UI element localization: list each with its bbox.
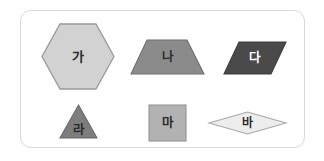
shape-rhombus-ba: 바	[208, 111, 287, 135]
triangle-icon	[59, 104, 98, 139]
shape-triangle-ra: 라	[59, 104, 98, 139]
parallelogram-icon	[223, 41, 287, 75]
parallelogram-path	[224, 42, 286, 74]
triangle-path	[60, 105, 97, 138]
shape-trapezoid-na: 나	[130, 39, 205, 75]
shapes-card: 가 나 다 라 마 바	[20, 10, 305, 148]
trapezoid-icon	[130, 39, 205, 75]
shape-square-ma: 마	[148, 104, 187, 142]
rhombus-path	[209, 112, 286, 134]
square-icon	[148, 104, 187, 142]
trapezoid-path	[131, 40, 204, 74]
square-path	[149, 105, 186, 141]
hexagon-icon	[41, 23, 115, 90]
rhombus-icon	[208, 111, 287, 135]
shape-parallelogram-da: 다	[223, 41, 287, 75]
shape-hexagon-ga: 가	[41, 23, 115, 90]
hexagon-path	[42, 24, 114, 89]
